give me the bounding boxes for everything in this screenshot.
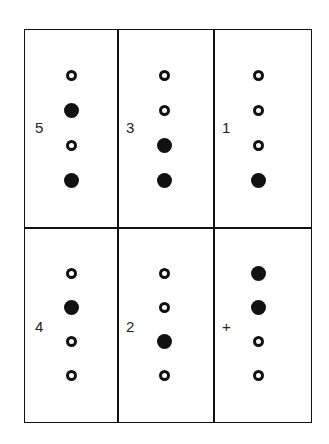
filled-dot-icon (251, 173, 266, 188)
open-dot-icon (159, 370, 170, 381)
braille-cell: 1 (214, 30, 311, 228)
open-dot-icon (253, 105, 264, 116)
open-dot-icon (159, 302, 170, 313)
filled-dot-icon (157, 138, 172, 153)
cell-label: 4 (35, 318, 43, 335)
open-dot-icon (66, 140, 77, 151)
filled-dot-icon (251, 266, 266, 281)
open-dot-icon (253, 140, 264, 151)
braille-cell: 2 (118, 228, 214, 422)
braille-cell: + (214, 228, 311, 422)
braille-number-grid: 53142+ (24, 29, 312, 423)
cell-label: 1 (222, 119, 230, 136)
filled-dot-icon (157, 173, 172, 188)
open-dot-icon (159, 70, 170, 81)
open-dot-icon (159, 268, 170, 279)
cell-label: 5 (35, 119, 43, 136)
open-dot-icon (253, 370, 264, 381)
open-dot-icon (66, 336, 77, 347)
cell-label: 2 (126, 318, 134, 335)
open-dot-icon (66, 370, 77, 381)
filled-dot-icon (64, 173, 79, 188)
open-dot-icon (66, 268, 77, 279)
cell-label: 3 (126, 119, 134, 136)
open-dot-icon (253, 336, 264, 347)
open-dot-icon (159, 105, 170, 116)
open-dot-icon (66, 70, 77, 81)
braille-cell: 5 (25, 30, 118, 228)
open-dot-icon (253, 70, 264, 81)
braille-cell: 4 (25, 228, 118, 422)
filled-dot-icon (64, 103, 79, 118)
filled-dot-icon (64, 300, 79, 315)
braille-cell: 3 (118, 30, 214, 228)
filled-dot-icon (157, 334, 172, 349)
filled-dot-icon (251, 300, 266, 315)
cell-label: + (222, 318, 231, 335)
